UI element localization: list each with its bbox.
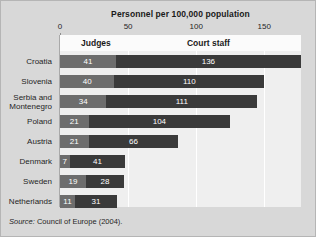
bar-row: 41136 bbox=[60, 55, 301, 68]
bar-row: 1928 bbox=[60, 175, 301, 188]
plot-area: JudgesCourt staff 4113640110341112110421… bbox=[60, 35, 301, 207]
x-tick-label-100: 100 bbox=[189, 22, 202, 31]
bar-segment-judges: 34 bbox=[60, 95, 106, 108]
source-note: Source: Council of Europe (2004). bbox=[9, 217, 122, 226]
bar-segment-court-staff: 136 bbox=[116, 55, 301, 68]
source-label: Source: bbox=[9, 217, 35, 226]
source-text: Council of Europe (2004). bbox=[37, 217, 122, 226]
bar-row: 34111 bbox=[60, 95, 301, 108]
column-header-court-staff: Court staff bbox=[187, 38, 230, 48]
category-label: Serbia and Montenegro bbox=[0, 93, 52, 111]
x-tick-label-50: 50 bbox=[124, 22, 133, 31]
x-tick-label-150: 150 bbox=[258, 22, 271, 31]
bar-row: 1131 bbox=[60, 195, 301, 208]
bar-segment-judges: 19 bbox=[60, 175, 86, 188]
category-label: Croatia bbox=[0, 57, 52, 66]
category-label: Denmark bbox=[0, 157, 52, 166]
chart-figure: Personnel per 100,000 population 0501001… bbox=[0, 0, 316, 237]
category-label: Netherlands bbox=[0, 197, 52, 206]
bar-segment-court-staff: 111 bbox=[106, 95, 257, 108]
x-tick-label-0: 0 bbox=[58, 22, 62, 31]
bar-segment-judges: 7 bbox=[60, 155, 70, 168]
bar-segment-court-staff: 41 bbox=[70, 155, 126, 168]
bar-row: 741 bbox=[60, 155, 301, 168]
bar-segment-court-staff: 31 bbox=[75, 195, 117, 208]
bar-segment-court-staff: 110 bbox=[114, 75, 264, 88]
bar-row: 21104 bbox=[60, 115, 301, 128]
column-header-judges: Judges bbox=[81, 38, 111, 48]
bar-segment-judges: 21 bbox=[60, 135, 89, 148]
bar-segment-court-staff: 104 bbox=[89, 115, 231, 128]
bar-row: 2166 bbox=[60, 135, 301, 148]
bar-segment-court-staff: 28 bbox=[86, 175, 124, 188]
category-label: Poland bbox=[0, 117, 52, 126]
category-label: Sweden bbox=[0, 177, 52, 186]
bar-segment-court-staff: 66 bbox=[89, 135, 179, 148]
bar-segment-judges: 41 bbox=[60, 55, 116, 68]
bar-segment-judges: 11 bbox=[60, 195, 75, 208]
chart-title: Personnel per 100,000 population bbox=[60, 9, 301, 19]
column-headers: JudgesCourt staff bbox=[60, 35, 301, 51]
x-axis-tick-labels: 050100150 bbox=[1, 22, 316, 34]
bar-segment-judges: 21 bbox=[60, 115, 89, 128]
category-label: Slovenia bbox=[0, 77, 52, 86]
bar-segment-judges: 40 bbox=[60, 75, 114, 88]
bar-row: 40110 bbox=[60, 75, 301, 88]
category-label: Austria bbox=[0, 137, 52, 146]
